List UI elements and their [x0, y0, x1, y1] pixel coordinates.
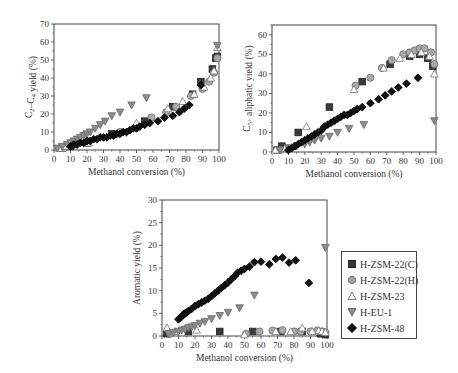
y-tick-label: 60	[40, 37, 50, 47]
y-tick-label: 20	[258, 108, 268, 118]
data-point	[431, 60, 438, 67]
data-point	[249, 328, 256, 335]
data-point	[375, 95, 383, 103]
y-tick-label: 40	[40, 73, 50, 83]
x-tick-label: 70	[382, 156, 392, 166]
y-axis-label: C2–C4 yield (%)	[24, 56, 39, 118]
x-tick-label: 60	[257, 340, 267, 350]
legend-label: H-ZSM-22(H)	[360, 275, 418, 286]
data-point	[256, 328, 263, 335]
y-axis-label: Aromatic yield (%)	[132, 231, 143, 305]
data-point	[116, 109, 124, 116]
data-point	[143, 95, 151, 102]
y-tick-label: 0	[45, 145, 50, 155]
chart-c5-aliphatic-yield: 01020304050607080901000102030405060Metha…	[242, 25, 443, 180]
y-tick-label: 25	[148, 218, 158, 228]
diamond-marker-icon	[347, 323, 357, 333]
data-point	[163, 324, 171, 331]
x-tick-label: 40	[224, 340, 234, 350]
x-tick-label: 80	[182, 154, 192, 164]
data-point	[326, 104, 333, 111]
data-point	[303, 123, 311, 130]
data-point	[216, 313, 224, 320]
series-h-zsm-48	[175, 254, 313, 323]
data-point	[322, 245, 330, 252]
y-tick-label: 30	[40, 91, 50, 101]
legend-item: H-ZSM-23	[347, 288, 416, 304]
circle-marker-icon	[347, 275, 357, 285]
x-tick-label: 20	[83, 154, 93, 164]
data-point	[128, 102, 136, 109]
legend-label: H-ZSM-22(C)	[360, 259, 418, 270]
y-axis-label: C5+ aliphatic yield (%)	[242, 45, 255, 131]
x-tick-label: 90	[306, 340, 316, 350]
y-tick-label: 20	[148, 240, 158, 250]
data-point	[257, 258, 265, 266]
legend-item: H-ZSM-22(C)	[347, 256, 416, 272]
x-tick-label: 40	[333, 156, 343, 166]
data-point	[208, 316, 216, 323]
data-point	[236, 305, 244, 312]
legend: H-ZSM-22(C) H-ZSM-22(H) H-ZSM-23 H-EU-1 …	[341, 251, 417, 339]
series-h-zsm-48	[67, 81, 205, 150]
series-h-zsm-23	[271, 48, 438, 153]
x-tick-label: 90	[198, 154, 208, 164]
x-tick-label: 100	[429, 156, 443, 166]
series-h-zsm-22-c-	[274, 51, 436, 153]
square-marker-icon	[347, 259, 357, 269]
data-point	[179, 98, 187, 105]
legend-label: H-ZSM-48	[360, 323, 404, 334]
data-point	[345, 125, 353, 132]
data-point	[359, 78, 366, 85]
data-point	[360, 122, 368, 129]
data-point	[216, 328, 223, 335]
x-tick-label: 30	[317, 156, 327, 166]
x-tick-label: 50	[132, 154, 142, 164]
x-axis-label: Methanol conversion (%)	[88, 167, 185, 178]
x-tick-label: 80	[290, 340, 300, 350]
data-point	[394, 84, 402, 92]
x-tick-label: 10	[66, 154, 76, 164]
data-point	[305, 279, 313, 287]
chart-c2c4-yield: 0102030405060708090100010203040506070Met…	[24, 19, 226, 178]
y-tick-label: 30	[148, 195, 158, 205]
y-tick-label: 70	[40, 19, 50, 29]
y-tick-label: 40	[258, 69, 268, 79]
x-tick-label: 70	[273, 340, 283, 350]
series-h-eu-1	[165, 245, 329, 338]
x-tick-label: 0	[160, 340, 165, 350]
y-tick-label: 15	[148, 263, 158, 273]
x-tick-label: 0	[52, 154, 57, 164]
x-tick-label: 60	[149, 154, 159, 164]
data-point	[388, 57, 395, 64]
data-point	[403, 80, 411, 88]
legend-item: H-ZSM-48	[347, 320, 416, 336]
x-tick-label: 90	[415, 156, 425, 166]
data-point	[224, 309, 232, 316]
chart-aromatic-yield: 0102030405060708090100051015202530Methan…	[132, 195, 334, 364]
y-tick-label: 0	[263, 147, 268, 157]
y-tick-label: 30	[258, 88, 268, 98]
x-tick-label: 30	[99, 154, 109, 164]
legend-label: H-EU-1	[360, 307, 392, 318]
x-tick-label: 0	[270, 156, 275, 166]
y-tick-label: 50	[40, 55, 50, 65]
data-point	[326, 133, 334, 140]
data-point	[414, 74, 422, 82]
data-point	[367, 74, 374, 81]
triangle-down-marker-icon	[347, 307, 357, 317]
data-point	[431, 118, 439, 125]
data-point	[388, 88, 396, 96]
data-point	[431, 70, 439, 77]
x-tick-label: 10	[284, 156, 294, 166]
x-tick-label: 100	[320, 340, 334, 350]
x-tick-label: 30	[207, 340, 217, 350]
data-point	[381, 91, 389, 99]
data-point	[272, 255, 280, 263]
x-tick-label: 60	[366, 156, 376, 166]
y-tick-label: 5	[153, 308, 158, 318]
x-axis-label: Methanol conversion (%)	[305, 169, 402, 180]
y-tick-label: 60	[258, 30, 268, 40]
data-point	[265, 260, 273, 268]
x-tick-label: 10	[174, 340, 184, 350]
